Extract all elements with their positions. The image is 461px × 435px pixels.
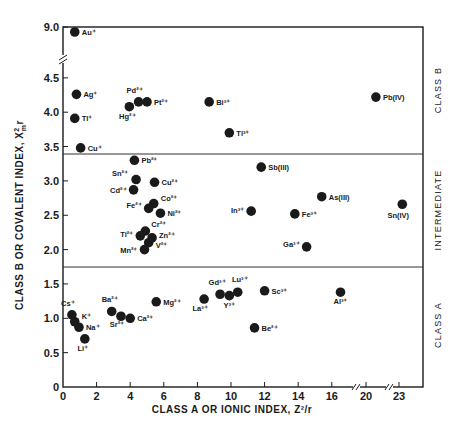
data-point: Cu²⁺: [150, 177, 178, 187]
data-point: Sn²⁺: [112, 169, 141, 185]
point-marker: [317, 192, 327, 202]
point-label: Cd²⁺: [110, 186, 127, 195]
point-label: Lu³⁺: [232, 275, 248, 284]
point-label: V²⁺: [156, 241, 168, 250]
point-label: Co²⁺: [161, 194, 178, 203]
y-tick-label: 0.5: [44, 347, 59, 359]
point-marker: [70, 27, 80, 37]
y-axis-ticks: 00.51.01.52.02.53.03.54.04.59.0: [44, 21, 68, 393]
point-marker: [125, 102, 135, 112]
point-label: Mn²⁺: [120, 246, 137, 255]
y-tick-label: 3.5: [44, 141, 59, 153]
point-marker: [76, 143, 86, 153]
point-label: Sn(IV): [387, 211, 409, 220]
point-label: Be²⁺: [262, 324, 278, 333]
data-point: Be²⁺: [250, 323, 278, 333]
y-tick-label: 4.0: [44, 106, 59, 118]
point-label: Mg²⁺: [163, 298, 180, 307]
data-point: Pt²⁺: [142, 97, 168, 107]
point-label: Sc³⁺: [272, 287, 288, 296]
data-point: In³⁺: [231, 206, 256, 216]
data-point: Gd³⁺: [209, 278, 226, 299]
x-tick-label: 12: [258, 390, 270, 402]
point-label: Cs⁺: [61, 299, 75, 308]
data-point: Mg²⁺: [151, 297, 180, 307]
data-point: Sc³⁺: [260, 286, 287, 296]
point-marker: [260, 286, 270, 296]
x-axis-title: CLASS A OR IONIC INDEX, Z²/r: [152, 404, 313, 415]
data-point: Cu⁺: [76, 143, 102, 153]
point-marker: [256, 162, 266, 172]
point-label: Li⁺: [78, 344, 89, 353]
data-point: Ca²⁺: [125, 314, 153, 324]
x-tick-label: 8: [194, 390, 200, 402]
point-label: Cu⁺: [88, 144, 102, 153]
point-label: Pb(IV): [383, 93, 405, 102]
data-point: Fe³⁺: [290, 209, 317, 219]
point-marker: [74, 322, 84, 332]
data-point: Sb(III): [256, 162, 289, 172]
data-point: Co²⁺: [149, 194, 177, 209]
y-axis-title: CLASS B OR COVALENT INDEX, X2mr: [13, 120, 27, 310]
data-point: Tl³⁺: [225, 128, 250, 138]
x-tick-label: 14: [292, 390, 305, 402]
data-point: Pb(IV): [371, 92, 405, 102]
point-marker: [142, 97, 152, 107]
point-label: Sr²⁺: [110, 320, 124, 329]
region-label-class-b: CLASS B: [433, 67, 443, 113]
point-label: Hg²⁺: [119, 112, 136, 121]
point-label: Na⁺: [86, 323, 100, 332]
point-label: Fe³⁺: [302, 210, 317, 219]
point-marker: [156, 208, 166, 218]
point-label: Tl⁺: [82, 114, 93, 123]
point-marker: [246, 206, 256, 216]
data-point: Lu³⁺: [232, 275, 248, 297]
point-marker: [199, 294, 209, 304]
point-marker: [336, 287, 346, 297]
data-point: Sn(IV): [387, 199, 409, 220]
point-marker: [70, 114, 80, 124]
y-tick-label: 1.5: [44, 278, 59, 290]
point-label: K⁺: [82, 312, 91, 321]
y-tick-label: 2.0: [44, 244, 59, 256]
data-point: Bi³⁺: [204, 97, 230, 107]
point-label: Bi³⁺: [216, 98, 230, 107]
point-label: Ca²⁺: [137, 314, 153, 323]
region-label-intermediate: INTERMEDIATE: [433, 170, 443, 251]
point-marker: [215, 289, 225, 299]
point-label: Al³⁺: [334, 297, 348, 306]
point-marker: [72, 90, 82, 100]
x-tick-label: 4: [127, 390, 134, 402]
x-tick-label: 10: [225, 390, 237, 402]
y-axis-break: [59, 55, 67, 64]
point-label: Pt²⁺: [154, 98, 168, 107]
y-tick-label: 1.0: [44, 312, 59, 324]
point-marker: [151, 297, 161, 307]
x-tick-label: 20: [360, 390, 372, 402]
y-tick-label: 4.5: [44, 72, 59, 84]
data-point: Al³⁺: [334, 287, 348, 306]
data-point: Tl⁺: [70, 114, 92, 124]
point-marker: [225, 291, 235, 301]
data-point: Ga³⁺: [283, 240, 311, 252]
y-tick-label: 0: [53, 381, 59, 393]
point-marker: [250, 323, 260, 333]
point-label: Fe²⁺: [126, 201, 141, 210]
data-point: Li⁺: [78, 334, 90, 353]
point-label: Sb(III): [268, 163, 289, 172]
data-point: Ni²⁺: [156, 208, 182, 218]
point-label: Pd²⁺: [127, 86, 143, 95]
point-label: Gd³⁺: [209, 278, 226, 287]
point-label: As(III): [329, 193, 350, 202]
point-label: Au⁺: [82, 28, 96, 37]
point-label: Tl³⁺: [236, 129, 249, 138]
point-marker: [140, 245, 150, 255]
y-tick-label: 2.5: [44, 209, 59, 221]
point-marker: [225, 128, 235, 138]
point-marker: [135, 231, 145, 241]
x-tick-label: 23: [393, 390, 405, 402]
point-label: Ni²⁺: [167, 209, 181, 218]
x-tick-label: 16: [326, 390, 338, 402]
point-marker: [125, 314, 135, 324]
point-marker: [107, 307, 117, 317]
